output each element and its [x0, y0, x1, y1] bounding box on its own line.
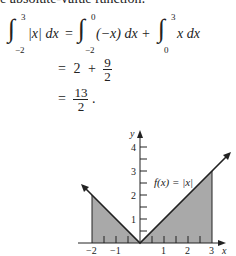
y-tick-label: 3 — [131, 166, 136, 177]
y-axis-label: y — [129, 128, 135, 139]
absolute-value-graph: −2 −1 1 2 3 x 1 2 3 4 y f(x) = |x| — [0, 0, 236, 256]
y-tick-label: 4 — [131, 142, 136, 153]
x-axis-label: x — [221, 245, 227, 256]
function-label: f(x) = |x| — [154, 176, 193, 189]
x-tick-label: −1 — [110, 245, 121, 256]
y-tick-label: 2 — [131, 190, 136, 201]
x-tick-label: −2 — [86, 245, 97, 256]
x-tick-label: 3 — [209, 245, 214, 256]
y-tick-label: 1 — [131, 214, 136, 225]
x-tick-label: 1 — [161, 245, 166, 256]
x-tick-label: 2 — [185, 245, 190, 256]
